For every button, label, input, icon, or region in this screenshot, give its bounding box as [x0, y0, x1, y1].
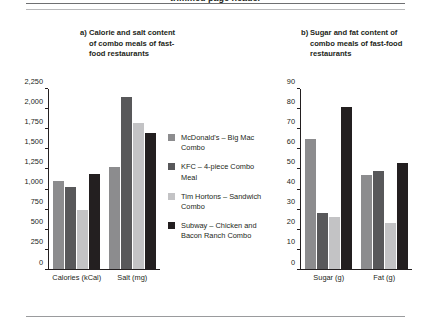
y-tick-a-1: [45, 249, 48, 250]
y-tick-label-a-5: 1,250: [25, 158, 44, 165]
legend-item[interactable]: McDonald's – Big Mac Combo: [168, 133, 268, 153]
panel-a-title-text: Calorie and salt content of combo meals …: [80, 28, 180, 60]
bar: [329, 217, 340, 269]
panel-b-marker: b): [301, 28, 308, 39]
y-tick-b-3: [297, 209, 300, 210]
x-axis-category-label: Salt (mg): [105, 274, 161, 282]
y-tick-label-b-8: 80: [287, 98, 295, 105]
y-tick-label-b-7: 70: [287, 118, 295, 125]
y-tick-b-1: [297, 249, 300, 250]
y-tick-label-b-3: 30: [287, 199, 295, 206]
y-tick-a-8: [45, 108, 48, 109]
bar-group: Calories (kCal): [49, 89, 105, 269]
bar: [65, 187, 76, 269]
y-tick-label-a-6: 1,500: [25, 138, 44, 145]
footer-rule: [26, 316, 405, 317]
y-tick-b-0: [297, 269, 300, 270]
panel-b-title: b) Sugar and fat content of combo meals …: [301, 28, 406, 60]
bar: [145, 133, 156, 269]
bar: [53, 181, 64, 269]
chart-panel-a: 02505007501,0001,2501,5001,7502,0002,250…: [14, 82, 160, 294]
y-tick-a-0: [45, 269, 48, 270]
y-tick-b-4: [297, 189, 300, 190]
bar: [77, 210, 88, 269]
y-tick-label-b-4: 40: [287, 178, 295, 185]
y-tick-label-a-2: 500: [31, 219, 43, 226]
panel-a-title: a) Calorie and salt content of combo mea…: [80, 28, 180, 60]
panel-a-marker: a): [80, 28, 87, 39]
header-rule-secondary: [26, 9, 405, 10]
y-tick-label-a-1: 250: [31, 239, 43, 246]
y-tick-label-b-6: 60: [287, 138, 295, 145]
y-tick-b-5: [297, 168, 300, 169]
bar-groups-a: Calories (kCal)Salt (mg): [49, 89, 160, 269]
bar: [397, 163, 408, 269]
y-tick-a-9: [45, 88, 48, 89]
bar: [373, 171, 384, 269]
legend-swatch-icon: [168, 134, 175, 141]
y-tick-b-9: [297, 88, 300, 89]
legend-item[interactable]: KFC – 4-piece Combo Meal: [168, 162, 268, 182]
y-tick-label-a-0: 0: [39, 259, 43, 266]
y-tick-label-a-4: 1,000: [25, 178, 44, 185]
legend-item[interactable]: Tim Hortons – Sandwich Combo: [168, 192, 268, 212]
y-tick-a-5: [45, 168, 48, 169]
legend-swatch-icon: [168, 222, 175, 229]
bar: [121, 97, 132, 269]
bar-group: Sugar (g): [301, 89, 357, 269]
y-tick-label-b-0: 0: [291, 259, 295, 266]
y-tick-a-3: [45, 209, 48, 210]
chart-legend: McDonald's – Big Mac ComboKFC – 4-piece …: [168, 133, 268, 251]
legend-item-label: KFC – 4-piece Combo Meal: [181, 162, 268, 182]
y-tick-label-b-5: 50: [287, 158, 295, 165]
header-rule-primary: [26, 3, 405, 4]
legend-item-label: Subway – Chicken and Bacon Ranch Combo: [181, 221, 268, 241]
figure-page: trimmed page header a) Calorie and salt …: [0, 0, 431, 323]
legend-item[interactable]: Subway – Chicken and Bacon Ranch Combo: [168, 221, 268, 241]
bar: [341, 107, 352, 269]
x-axis-category-label: Calories (kCal): [49, 274, 105, 282]
y-tick-label-a-8: 2,000: [25, 98, 44, 105]
panel-b-title-text: Sugar and fat content of combo meals of …: [301, 28, 406, 60]
x-axis-category-label: Sugar (g): [301, 274, 357, 282]
bar-group: Fat (g): [357, 89, 413, 269]
bar: [109, 167, 120, 269]
y-tick-a-7: [45, 128, 48, 129]
y-tick-label-b-2: 20: [287, 219, 295, 226]
y-tick-label-a-3: 750: [31, 199, 43, 206]
legend-swatch-icon: [168, 193, 175, 200]
legend-swatch-icon: [168, 163, 175, 170]
y-tick-a-4: [45, 189, 48, 190]
y-tick-label-a-9: 2,250: [25, 78, 44, 85]
y-tick-a-2: [45, 229, 48, 230]
y-tick-b-6: [297, 148, 300, 149]
x-axis-category-label: Fat (g): [357, 274, 413, 282]
bar: [385, 223, 396, 269]
chart-panel-b: 0102030405060708090Sugar (g)Fat (g): [272, 82, 412, 294]
bar: [133, 123, 144, 269]
y-tick-label-b-1: 10: [287, 239, 295, 246]
x-axis-line-b: [300, 269, 412, 270]
legend-item-label: Tim Hortons – Sandwich Combo: [181, 192, 268, 212]
bar-groups-b: Sugar (g)Fat (g): [301, 89, 412, 269]
bar: [89, 174, 100, 269]
y-tick-b-7: [297, 128, 300, 129]
y-tick-a-6: [45, 148, 48, 149]
y-tick-b-2: [297, 229, 300, 230]
plot-area-a: 02505007501,0001,2501,5001,7502,0002,250…: [48, 89, 160, 270]
bar-group: Salt (mg): [105, 89, 161, 269]
bar: [361, 175, 372, 269]
bar: [305, 139, 316, 269]
y-tick-label-a-7: 1,750: [25, 118, 44, 125]
legend-item-label: McDonald's – Big Mac Combo: [181, 133, 268, 153]
x-axis-line-a: [48, 269, 160, 270]
y-tick-b-8: [297, 108, 300, 109]
plot-area-b: 0102030405060708090Sugar (g)Fat (g): [300, 89, 412, 270]
bar: [317, 213, 328, 269]
y-tick-label-b-9: 90: [287, 78, 295, 85]
